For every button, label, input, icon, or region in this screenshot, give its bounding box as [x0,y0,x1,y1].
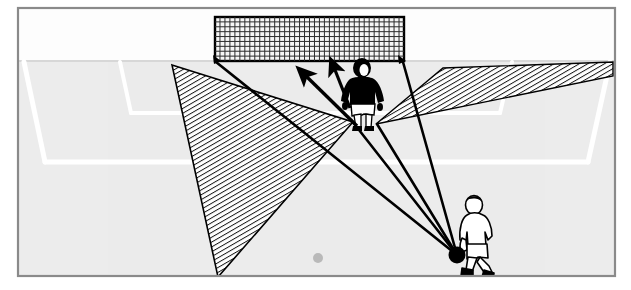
soccer-angle-diagram [0,0,631,290]
attacker-back-boot [461,268,473,276]
goalkeeper-shorts [351,104,375,116]
ball [449,247,466,264]
goal [213,17,406,64]
penalty-spot [313,253,323,263]
goalkeeper-face [360,64,369,76]
diagram-content [18,8,615,279]
goalkeeper-right-leg [366,114,372,128]
goalkeeper-right-hand [377,103,383,111]
goalkeeper-right-boot [364,126,374,131]
figure-canvas [0,0,631,290]
goalkeeper-left-boot [352,126,362,131]
